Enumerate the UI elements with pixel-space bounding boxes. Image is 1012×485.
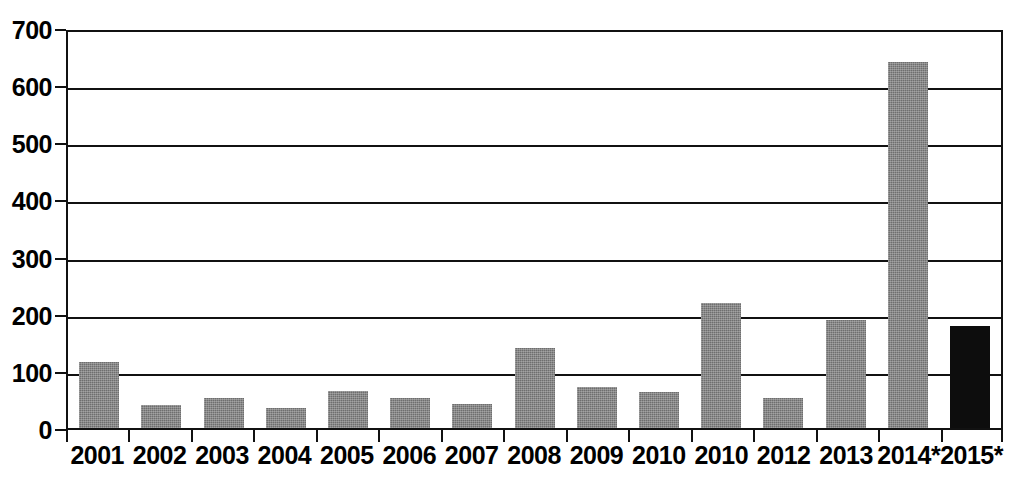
bar[interactable]: [390, 398, 430, 428]
bar[interactable]: [141, 405, 181, 428]
y-tick-mark: [55, 258, 66, 260]
bar-slot: [628, 32, 690, 428]
x-tick-label: 2010: [628, 440, 690, 480]
bar[interactable]: [515, 348, 555, 428]
y-tick-mark: [55, 200, 66, 202]
x-tick-label: 2013: [815, 440, 877, 480]
bar-slot: [814, 32, 876, 428]
x-tick-label: 2015*: [940, 440, 1003, 480]
bar-slot: [379, 32, 441, 428]
bar[interactable]: [266, 408, 306, 428]
bar-slot: [130, 32, 192, 428]
bar[interactable]: [826, 320, 866, 428]
x-tick-label: 2003: [191, 440, 253, 480]
bar-slot: [690, 32, 752, 428]
y-tick-label: 500: [12, 132, 52, 157]
y-tick-label: 300: [12, 246, 52, 271]
x-tick-label: 2006: [378, 440, 440, 480]
y-tick-mark: [55, 372, 66, 374]
x-tick-label: 2004: [253, 440, 315, 480]
bar-chart: 0100200300400500600700 20012002200320042…: [0, 0, 1012, 485]
bar[interactable]: [204, 398, 244, 428]
x-tick-label: 2005: [316, 440, 378, 480]
x-tick-label: 2008: [503, 440, 565, 480]
bar[interactable]: [328, 391, 368, 428]
x-tick-label: 2001: [66, 440, 128, 480]
bar[interactable]: [452, 404, 492, 428]
bar-slot: [192, 32, 254, 428]
y-axis: 0100200300400500600700: [0, 0, 66, 485]
bar-slot: [255, 32, 317, 428]
x-tick-label: 2002: [128, 440, 190, 480]
bar[interactable]: [763, 398, 803, 428]
y-tick-label: 0: [39, 418, 52, 443]
bars-group: [68, 32, 1001, 428]
bar-slot: [441, 32, 503, 428]
bar[interactable]: [577, 387, 617, 428]
bar[interactable]: [888, 62, 928, 428]
y-tick-label: 700: [12, 18, 52, 43]
bar-slot: [877, 32, 939, 428]
x-tick-label: 2010: [690, 440, 752, 480]
bar[interactable]: [79, 362, 119, 428]
y-tick-label: 400: [12, 189, 52, 214]
y-tick-mark: [55, 429, 66, 431]
x-axis-labels: 2001200220032004200520062007200820092010…: [66, 440, 1003, 480]
x-tick-label: 2012: [752, 440, 814, 480]
x-tick-label: 2007: [440, 440, 502, 480]
bar-slot: [68, 32, 130, 428]
x-tick-label: 2009: [565, 440, 627, 480]
y-tick-mark: [55, 86, 66, 88]
x-tick-label: 2014*: [877, 440, 940, 480]
bar-slot: [939, 32, 1001, 428]
bar-slot: [566, 32, 628, 428]
bar-slot: [752, 32, 814, 428]
bar-slot: [317, 32, 379, 428]
y-tick-label: 200: [12, 303, 52, 328]
y-tick-mark: [55, 143, 66, 145]
bar-slot: [503, 32, 565, 428]
bar[interactable]: [950, 326, 990, 428]
plot-area: [66, 30, 1003, 430]
bar[interactable]: [701, 303, 741, 428]
y-tick-mark: [55, 29, 66, 31]
bar[interactable]: [639, 392, 679, 428]
y-tick-mark: [55, 315, 66, 317]
y-tick-label: 100: [12, 360, 52, 385]
y-tick-label: 600: [12, 75, 52, 100]
